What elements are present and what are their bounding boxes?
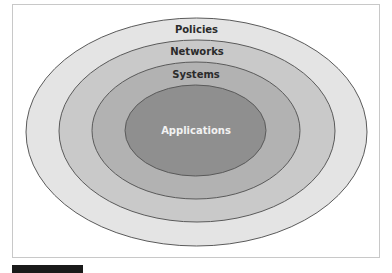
caption-bar [12,265,83,273]
layer-applications-label: Applications [161,125,231,136]
layer-systems-label: Systems [172,69,220,80]
layer-policies-label: Policies [175,24,218,35]
layer-networks-label: Networks [170,46,224,57]
